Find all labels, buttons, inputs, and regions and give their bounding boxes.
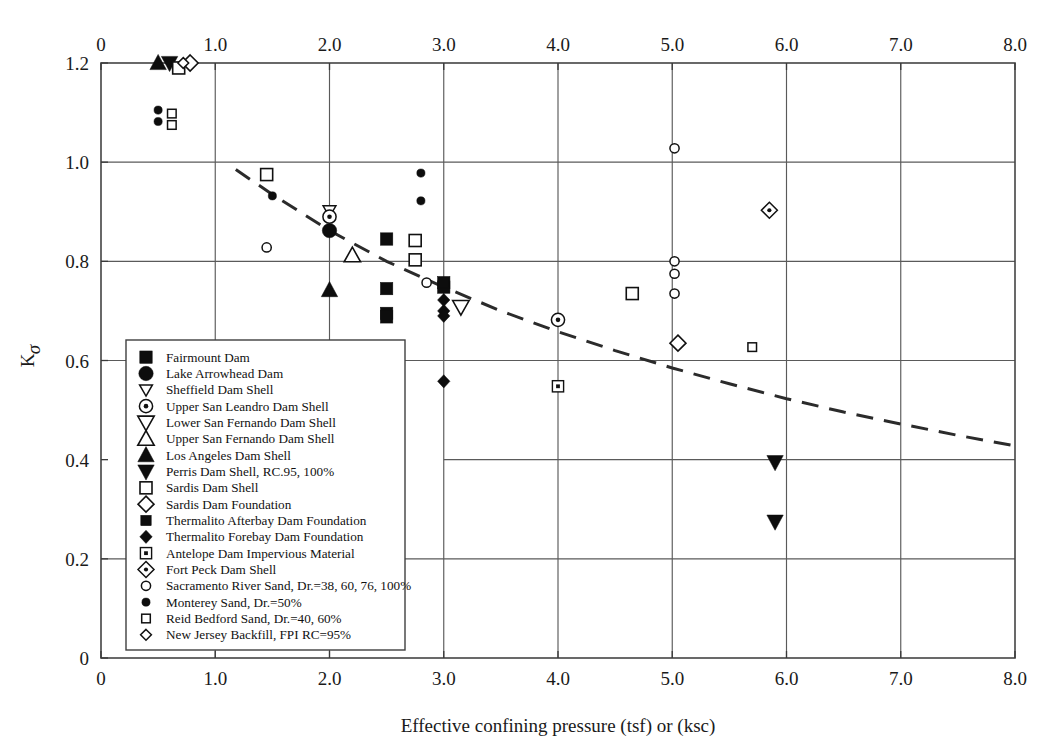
legend-item-label: Los Angeles Dam Shell — [166, 448, 291, 463]
legend-item-label: Sardis Dam Shell — [166, 480, 259, 495]
legend-marker-dot-circle — [139, 400, 152, 413]
legend-item[interactable]: Lower San Fernando Dam Shell — [138, 415, 336, 431]
legend-item[interactable]: Sacramento River Sand, Dr.=38, 60, 76, 1… — [141, 578, 411, 593]
ytick-label: 0.6 — [65, 351, 89, 372]
legend-item-label: Sardis Dam Foundation — [166, 497, 292, 512]
data-point-filled-square — [380, 233, 392, 245]
xtick-label-bottom: 3.0 — [432, 668, 456, 689]
xtick-label-top: 5.0 — [660, 34, 684, 55]
legend-icon-open-circle-small — [141, 581, 150, 590]
data-point-filled-triangle-down — [767, 515, 783, 530]
legend-marker-square-dot — [140, 548, 151, 559]
data-point-filled-square-small — [439, 277, 449, 287]
legend-marker-filled-square-small — [141, 515, 151, 525]
legend-item[interactable]: Upper San Leandro Dam Shell — [139, 399, 329, 414]
xtick-label-bottom: 8.0 — [1003, 668, 1027, 689]
xtick-label-top: 0 — [96, 34, 106, 55]
legend-icon-open-square — [140, 482, 152, 494]
dot-circle-inner — [144, 404, 149, 409]
xtick-label-bottom: 2.0 — [318, 668, 342, 689]
ytick-label: 0 — [80, 648, 90, 669]
data-point-open-square — [409, 235, 421, 247]
ytick-label: 1.0 — [65, 152, 89, 173]
data-point-open-circle-small — [670, 289, 679, 298]
series-antelope-dam-impervious-material — [552, 381, 563, 392]
data-point-filled-square — [380, 282, 392, 294]
data-point-open-circle-small — [422, 278, 431, 287]
legend-item-label: Reid Bedford Sand, Dr.=40, 60% — [166, 611, 342, 626]
series-monterey-sand-dr-50 — [154, 106, 425, 205]
data-point-filled-circle — [322, 223, 336, 237]
xtick-label-top: 2.0 — [318, 34, 342, 55]
data-point-dot-circle — [323, 210, 336, 223]
data-point-open-square — [409, 254, 421, 266]
legend-item-label: Upper San Fernando Dam Shell — [166, 431, 335, 446]
data-point-filled-circle-small — [417, 169, 425, 177]
data-point-open-square-small — [168, 109, 177, 118]
y-axis-title-text: K — [17, 353, 38, 367]
data-point-open-square — [626, 288, 638, 300]
xtick-label-top: 3.0 — [432, 34, 456, 55]
legend-item-label: Lower San Fernando Dam Shell — [166, 415, 336, 430]
series-fort-peck-dam-shell — [761, 202, 777, 218]
y-axis-title-subscript: σ — [23, 344, 44, 354]
legend-item-label: Antelope Dam Impervious Material — [166, 546, 355, 561]
legend-item[interactable]: Reid Bedford Sand, Dr.=40, 60% — [142, 611, 342, 626]
legend-item-label: Perris Dam Shell, RC.95, 100% — [166, 464, 334, 479]
data-point-open-circle-small — [670, 144, 679, 153]
legend-item[interactable]: Perris Dam Shell, RC.95, 100% — [138, 464, 334, 480]
xtick-label-top: 1.0 — [203, 34, 227, 55]
legend-item[interactable]: New Jersey Backfill, FPI RC=95% — [141, 627, 351, 642]
y-axis-title: Kσ — [17, 344, 44, 367]
xtick-label-top: 6.0 — [775, 34, 799, 55]
data-point-open-circle-small — [670, 269, 679, 278]
ytick-label: 0.2 — [65, 549, 89, 570]
legend-item-label: Sacramento River Sand, Dr.=38, 60, 76, 1… — [166, 578, 411, 593]
diamond-dot-inner — [767, 208, 771, 212]
data-point-open-circle-small — [670, 257, 679, 266]
data-point-open-square-small — [748, 343, 757, 352]
legend-item-label: Lake Arrowhead Dam — [166, 366, 284, 381]
legend-icon-filled-square-small — [141, 515, 151, 525]
series-upper-san-fernando-dam-shell — [344, 247, 360, 262]
data-point-square-dot — [552, 381, 563, 392]
square-dot-inner — [556, 384, 560, 388]
data-point-open-triangle-up — [344, 247, 360, 262]
legend-item[interactable]: Upper San Fernando Dam Shell — [138, 431, 335, 447]
x-axis-title: Effective confining pressure (tsf) or (k… — [401, 715, 716, 737]
data-point-open-square-small — [168, 121, 177, 130]
legend-item[interactable]: Thermalito Afterbay Dam Foundation — [141, 513, 367, 528]
data-point-open-triangle-down — [453, 301, 469, 316]
legend-item[interactable]: Antelope Dam Impervious Material — [140, 546, 355, 561]
xtick-label-bottom: 4.0 — [546, 668, 570, 689]
xtick-label-top: 8.0 — [1003, 34, 1027, 55]
legend-item-label: Sheffield Dam Shell — [166, 382, 274, 397]
data-point-open-circle-small — [262, 243, 271, 252]
legend-icon-filled-circle-small — [142, 598, 150, 606]
legend-icon-dot-circle — [139, 400, 152, 413]
xtick-label-top: 4.0 — [546, 34, 570, 55]
square-dot-inner — [144, 551, 148, 555]
xtick-label-bottom: 0 — [96, 668, 106, 689]
data-point-open-square — [261, 169, 273, 181]
xtick-label-bottom: 6.0 — [775, 668, 799, 689]
data-point-filled-circle-small — [154, 106, 162, 114]
data-point-filled-triangle-down — [767, 456, 783, 471]
legend: Fairmount DamLake Arrowhead DamSheffield… — [126, 340, 411, 650]
legend-marker-filled-circle — [139, 366, 153, 380]
legend-icon-open-square-small — [142, 614, 151, 623]
legend-marker-filled-circle-small — [142, 598, 150, 606]
legend-item[interactable]: Monterey Sand, Dr.=50% — [142, 595, 302, 610]
xtick-label-bottom: 5.0 — [660, 668, 684, 689]
legend-item-label: Upper San Leandro Dam Shell — [166, 399, 329, 414]
legend-marker-open-circle-small — [141, 581, 150, 590]
series-sardis-dam-shell — [173, 62, 639, 300]
ytick-label: 0.8 — [65, 251, 89, 272]
data-point-filled-diamond — [438, 375, 450, 388]
legend-item-label: Fort Peck Dam Shell — [166, 562, 277, 577]
legend-marker-open-square — [140, 482, 152, 494]
xtick-label-top: 7.0 — [889, 34, 913, 55]
series-thermalito-afterbay-dam-foundation — [439, 277, 449, 287]
legend-item[interactable]: Thermalito Forebay Dam Foundation — [140, 529, 364, 544]
legend-icon-filled-circle — [139, 366, 153, 380]
